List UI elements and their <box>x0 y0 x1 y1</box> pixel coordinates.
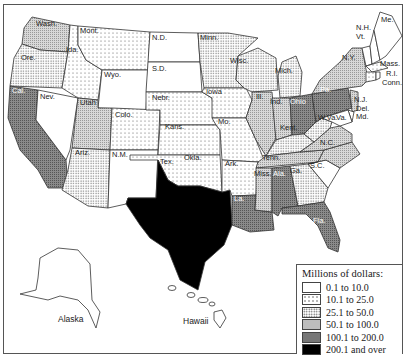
legend-item: 0.1 to 10.0 <box>302 281 402 294</box>
legend-label: 50.1 to 100.0 <box>326 319 379 330</box>
svg-text:Ohio: Ohio <box>290 97 306 106</box>
svg-text:Tenn.: Tenn. <box>262 153 280 162</box>
svg-text:Mass.: Mass. <box>380 59 400 68</box>
svg-text:Ill.: Ill. <box>256 92 264 101</box>
svg-text:N.C.: N.C. <box>320 138 335 147</box>
svg-text:La.: La. <box>234 194 244 203</box>
svg-text:N.D.: N.D. <box>152 33 167 42</box>
legend-swatch-dense-dots <box>302 307 321 318</box>
svg-text:N.Y.: N.Y. <box>342 53 356 62</box>
legend-item: 10.1 to 25.0 <box>302 294 402 307</box>
svg-text:Okla.: Okla. <box>184 153 202 162</box>
state-rhode-island <box>376 72 380 80</box>
svg-text:Ala.: Ala. <box>273 169 286 178</box>
svg-text:Kent.: Kent. <box>280 123 298 132</box>
svg-text:W.Va.: W.Va. <box>318 113 337 122</box>
svg-text:Fla.: Fla. <box>313 216 326 225</box>
svg-text:Ark.: Ark. <box>225 159 238 168</box>
legend-swatch-black <box>302 344 321 355</box>
svg-text:Va.: Va. <box>336 113 347 122</box>
svg-text:Tex.: Tex. <box>160 157 174 166</box>
legend-label: 200.1 and over <box>326 344 386 355</box>
svg-text:N.J.: N.J. <box>354 95 367 104</box>
legend-swatch-sparse-dots <box>302 294 321 305</box>
legend-item: 50.1 to 100.0 <box>302 319 402 332</box>
svg-text:Wisc.: Wisc. <box>230 56 248 65</box>
svg-text:Ore.: Ore. <box>21 53 36 62</box>
legend-label: 10.1 to 25.0 <box>326 294 374 305</box>
svg-text:S.C.: S.C. <box>310 161 325 170</box>
svg-text:Cal.: Cal. <box>12 86 25 95</box>
svg-text:Minn.: Minn. <box>200 33 218 42</box>
legend-label: 100.1 to 200.0 <box>326 332 384 343</box>
svg-text:Utah: Utah <box>80 98 96 107</box>
svg-text:Ariz.: Ariz. <box>75 148 90 157</box>
svg-text:Me.: Me. <box>381 15 394 24</box>
svg-text:Wyo.: Wyo. <box>104 70 121 79</box>
svg-text:Nev.: Nev. <box>40 92 55 101</box>
svg-text:Ga.: Ga. <box>290 166 302 175</box>
legend-swatch-light-gray <box>302 319 321 330</box>
svg-text:Ida.: Ida. <box>66 45 79 54</box>
svg-text:Kans.: Kans. <box>165 122 184 131</box>
svg-text:Nebr.: Nebr. <box>152 93 170 102</box>
hawaii-label: Hawaii <box>183 316 209 326</box>
state-connecticut <box>366 72 376 82</box>
state-arizona <box>62 148 110 208</box>
svg-text:N.H.: N.H. <box>356 23 371 32</box>
legend-item: 25.1 to 50.0 <box>302 306 402 319</box>
map-legend: Millions of dollars: 0.1 to 10.0 10.1 to… <box>296 264 402 354</box>
svg-text:Miss.: Miss. <box>254 169 272 178</box>
legend-title: Millions of dollars: <box>302 268 402 279</box>
svg-text:Mo.: Mo. <box>218 117 231 126</box>
svg-text:R.I.: R.I. <box>386 69 398 78</box>
state-michigan <box>278 56 302 98</box>
svg-text:Conn.: Conn. <box>382 78 402 87</box>
svg-text:Wash.: Wash. <box>36 19 57 28</box>
alaska-label: Alaska <box>58 314 84 324</box>
state-florida <box>282 202 340 252</box>
legend-item: 100.1 to 200.0 <box>302 331 402 344</box>
state-wisconsin <box>236 48 278 92</box>
legend-swatch-dark-gray <box>302 332 321 343</box>
svg-text:Colo.: Colo. <box>115 110 133 119</box>
svg-text:Iowa: Iowa <box>206 87 223 96</box>
svg-text:Pa.: Pa. <box>320 85 331 94</box>
legend-swatch-white <box>302 282 321 293</box>
legend-label: 0.1 to 10.0 <box>326 282 369 293</box>
svg-text:Mich.: Mich. <box>275 66 293 75</box>
svg-text:Ind.: Ind. <box>270 97 283 106</box>
svg-text:N.M.: N.M. <box>112 150 128 159</box>
svg-text:Md.: Md. <box>356 112 369 121</box>
svg-text:Vt.: Vt. <box>356 32 365 41</box>
svg-text:S.D.: S.D. <box>152 64 167 73</box>
legend-label: 25.1 to 50.0 <box>326 307 374 318</box>
legend-item: 200.1 and over <box>302 344 402 357</box>
svg-text:Mont.: Mont. <box>80 26 99 35</box>
